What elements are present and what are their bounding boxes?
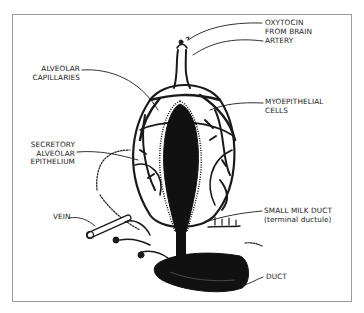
label-oxytocin: OXYTOCIN FROM BRAIN (265, 19, 312, 36)
label-artery: ARTERY (265, 37, 293, 46)
label-small-milk-duct: SMALL MILK DUCT (terminal ductule) (264, 207, 332, 224)
label-line: (terminal ductule) (264, 216, 332, 225)
label-line: EPITHELIUM (16, 158, 75, 167)
label-myoepithelial-cells: MYOEPITHELIAL CELLS (265, 98, 323, 115)
leader-oxytocin (188, 23, 262, 40)
label-line: DUCT (266, 273, 287, 282)
label-duct: DUCT (266, 273, 287, 282)
label-line: ARTERY (265, 37, 293, 46)
label-line: CELLS (265, 107, 323, 116)
label-line: VEIN (53, 213, 71, 222)
label-line: FROM BRAIN (265, 28, 312, 37)
label-line: CAPILLARIES (22, 74, 80, 83)
leader-artery (193, 40, 263, 55)
label-vein: VEIN (53, 213, 71, 222)
label-secretory-epithelium: SECRETORY ALVEOLAR EPITHELIUM (16, 141, 75, 167)
leader-vein (69, 217, 95, 226)
milk-duct (154, 253, 248, 292)
label-alveolar-capillaries: ALVEOLAR CAPILLARIES (22, 65, 80, 82)
